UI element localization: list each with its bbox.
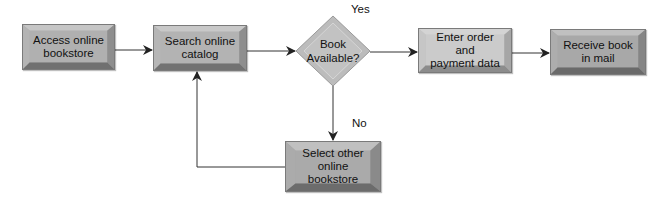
node-access-online-bookstore: Access online bookstore [22, 24, 115, 70]
node-enter-order-and-payment-data: Enter order and payment data [418, 28, 512, 73]
node-label: Enter order and payment data [426, 35, 504, 65]
node-label: Access online bookstore [30, 31, 107, 62]
yes-label: Yes [351, 3, 370, 15]
edge-select-to-search [197, 72, 285, 167]
node-search-online-catalog: Search online catalog [153, 25, 247, 71]
flowchart-canvas: Access online bookstore Search online ca… [0, 0, 666, 203]
node-select-other-online-bookstore: Select other online bookstore [285, 141, 381, 192]
node-receive-book-in-mail: Receive book in mail [550, 29, 646, 75]
node-label: Select other online bookstore [294, 148, 372, 185]
node-label: Receive book in mail [558, 36, 638, 67]
node-label: Search online catalog [161, 32, 239, 63]
no-label: No [352, 117, 367, 129]
decision-label: Book Available? [296, 37, 370, 65]
